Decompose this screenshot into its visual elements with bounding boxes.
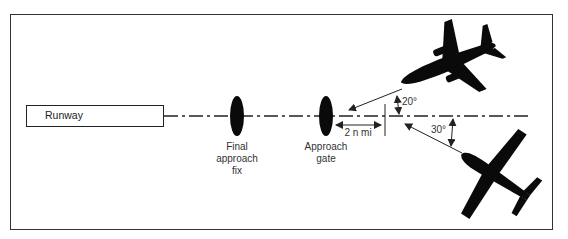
- angle-30-arrow: [451, 119, 453, 146]
- approach-gate-marker: [319, 96, 333, 136]
- angle-20-arrow: [397, 96, 399, 114]
- runway: Runway: [26, 105, 164, 127]
- jet-intercept-path: [349, 89, 402, 110]
- distance-label: 2 n mi: [338, 127, 378, 139]
- angle-20-label: 20°: [402, 96, 422, 108]
- runway-label: Runway: [45, 109, 83, 121]
- final-approach-fix-marker: [230, 96, 244, 136]
- final-approach-fix-label: Final approach fix: [207, 141, 267, 177]
- approach-gate-label: Approach gate: [296, 141, 356, 165]
- angle-30-label: 30°: [431, 124, 451, 136]
- light-aircraft-icon: [434, 111, 558, 239]
